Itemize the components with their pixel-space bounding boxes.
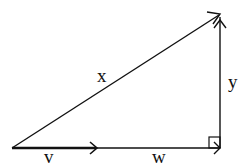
vector-x: [12, 12, 220, 148]
label-x: x: [97, 65, 107, 86]
vector-y: [214, 17, 226, 148]
label-w: w: [152, 146, 166, 166]
vector-v: [12, 142, 97, 154]
vector-triangle-diagram: x y v w: [0, 0, 248, 166]
label-v: v: [44, 146, 54, 166]
label-y: y: [228, 71, 238, 92]
